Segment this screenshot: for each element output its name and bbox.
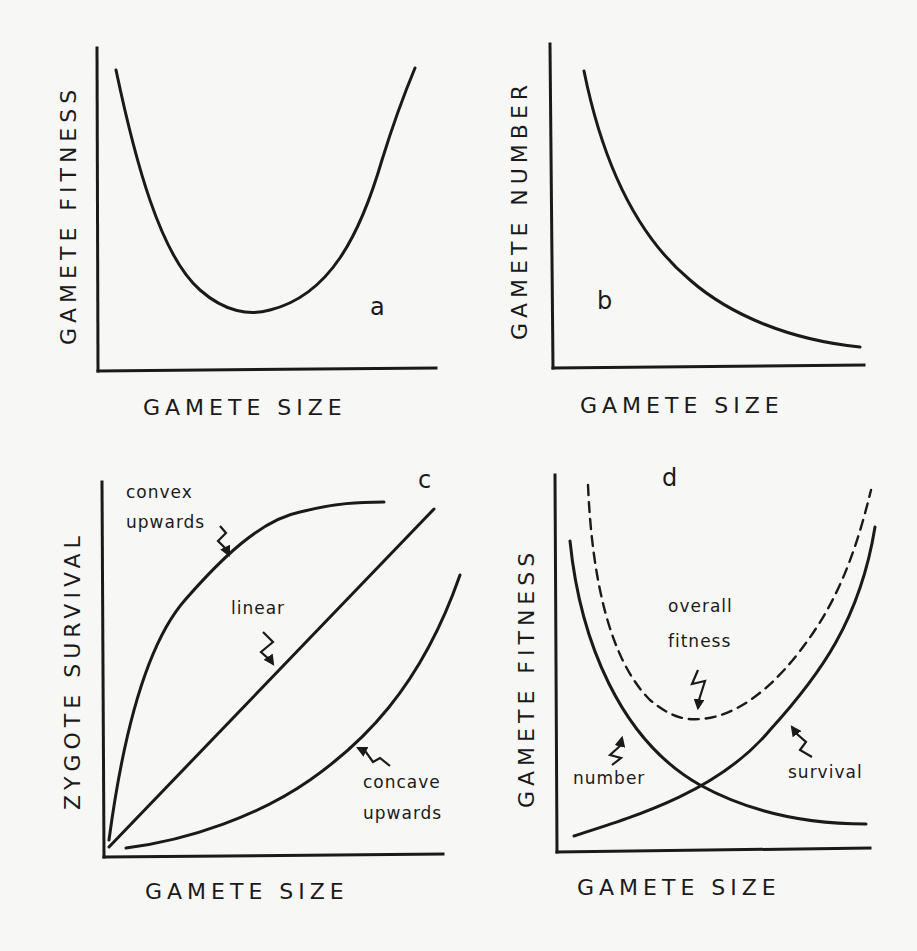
x-axis xyxy=(104,854,443,857)
x-axis-label: GAMETE SIZE xyxy=(145,879,349,904)
panel-d: d overall fitness number survival GAMETE… xyxy=(514,464,875,900)
panel-letter-b: b xyxy=(597,287,612,315)
y-axis-label: GAMETE FITNESS xyxy=(514,548,539,808)
panel-a: a GAMETE FITNESS GAMETE SIZE xyxy=(56,48,436,420)
y-axis xyxy=(550,44,553,368)
convex-label-line1: convex xyxy=(126,482,193,502)
linear-arrow-icon xyxy=(261,632,273,664)
concave-label-line1: concave xyxy=(363,772,441,792)
number-curve xyxy=(584,71,860,347)
linear-line xyxy=(109,509,434,847)
convex-label-line2: upwards xyxy=(126,512,205,532)
panel-letter-c: c xyxy=(418,466,431,494)
panel-letter-d: d xyxy=(662,464,677,492)
y-axis xyxy=(102,482,104,857)
panel-c: c convex upwards linear concave upwards … xyxy=(60,466,460,904)
y-axis-label: ZYGOTE SURVIVAL xyxy=(60,531,85,810)
x-axis-label: GAMETE SIZE xyxy=(577,875,781,900)
y-axis xyxy=(97,48,98,371)
convex-upwards-curve xyxy=(109,502,384,840)
overall-label-line2: fitness xyxy=(668,631,731,651)
x-axis xyxy=(553,365,864,368)
panel-b: b GAMETE NUMBER GAMETE SIZE xyxy=(507,44,864,418)
y-axis-label: GAMETE NUMBER xyxy=(507,80,532,340)
x-axis xyxy=(98,368,436,371)
number-label: number xyxy=(573,768,645,788)
y-axis xyxy=(555,475,557,852)
survival-label: survival xyxy=(788,762,863,782)
x-axis xyxy=(557,848,870,852)
concave-label-line2: upwards xyxy=(363,803,442,823)
y-axis-label: GAMETE FITNESS xyxy=(56,85,81,345)
linear-label: linear xyxy=(231,598,285,618)
x-axis-label: GAMETE SIZE xyxy=(143,395,347,420)
panel-letter-a: a xyxy=(370,293,385,321)
survival-arrow-icon xyxy=(792,727,812,757)
number-arrow-icon xyxy=(610,738,622,765)
convex-arrow-icon xyxy=(218,526,229,555)
overall-arrow-icon xyxy=(692,670,705,708)
survival-curve xyxy=(574,527,875,836)
fitness-curve xyxy=(116,68,415,313)
overall-label-line1: overall xyxy=(668,596,733,616)
figure-canvas: a GAMETE FITNESS GAMETE SIZE b GAMETE NU… xyxy=(0,0,917,951)
concave-arrow-icon xyxy=(358,748,390,766)
x-axis-label: GAMETE SIZE xyxy=(580,393,784,418)
